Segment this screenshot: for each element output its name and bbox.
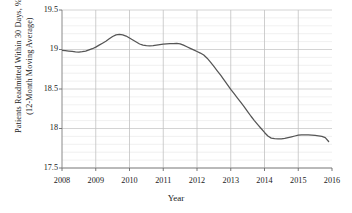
chart-container: Patients Readmitted Within 30 Days, % (1… — [0, 0, 352, 213]
x-tick-label: 2016 — [312, 176, 352, 185]
x-axis-title: Year — [0, 193, 352, 203]
